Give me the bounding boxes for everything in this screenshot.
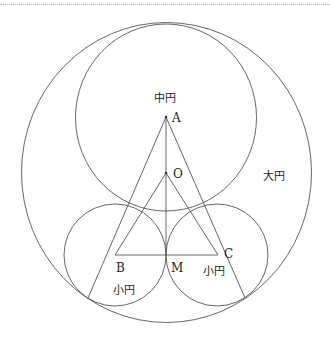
label-C: C [224,248,233,260]
label-M: M [171,262,183,274]
label-small-circle-left: 小円 [113,285,135,296]
label-medium-circle: 中円 [154,93,176,104]
label-O: O [173,168,183,180]
label-small-circle-right: 小円 [203,266,225,277]
label-large-circle: 大円 [263,171,285,182]
label-A: A [172,112,181,124]
line-A-left-tangent [88,117,166,298]
line-O-C [166,173,218,255]
point-O [165,172,168,175]
line-O-B [115,173,166,255]
label-B: B [116,262,125,274]
point-A [165,116,168,119]
